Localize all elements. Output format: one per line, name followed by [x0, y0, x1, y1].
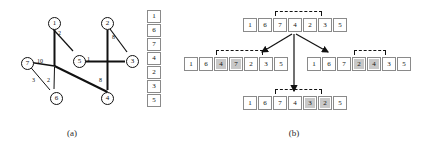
array-cell[interactable]: 3 — [259, 57, 273, 71]
array-cell[interactable]: 5 — [333, 18, 347, 32]
array-cell-swapped[interactable]: 2 — [352, 57, 366, 71]
caption-panel-a: (a) — [52, 128, 92, 138]
array-cell-swapped[interactable]: 4 — [214, 57, 228, 71]
graph-node-6[interactable]: 6 — [50, 92, 63, 105]
array-cell[interactable]: 5 — [397, 57, 411, 71]
tour-cell[interactable]: 6 — [147, 24, 161, 37]
array-cell[interactable]: 6 — [199, 57, 213, 71]
tour-permutation-column: 1 6 7 4 2 3 5 — [147, 10, 161, 108]
reversal-bracket-child-center — [275, 89, 322, 94]
array-cell[interactable]: 7 — [273, 18, 287, 32]
edge-weight-7-4: 10 — [37, 58, 43, 64]
graph-node-1[interactable]: 1 — [48, 17, 61, 30]
array-cell[interactable]: 1 — [184, 57, 198, 71]
array-cell[interactable]: 5 — [333, 96, 347, 110]
tour-cell[interactable]: 4 — [147, 52, 161, 65]
array-cell[interactable]: 1 — [243, 96, 257, 110]
reversal-bracket-parent — [275, 11, 322, 16]
reversal-bracket-child-left — [216, 50, 263, 55]
edge-weight-5-3: 1 — [87, 56, 90, 62]
array-cell[interactable]: 7 — [337, 57, 351, 71]
graph-node-2[interactable]: 2 — [101, 17, 114, 30]
array-cell[interactable]: 2 — [244, 57, 258, 71]
array-row-child-left: 1 6 4 7 2 3 5 — [184, 57, 289, 71]
array-cell[interactable]: 3 — [318, 18, 332, 32]
reversal-bracket-child-right — [354, 50, 386, 55]
array-cell-swapped[interactable]: 7 — [229, 57, 243, 71]
tour-cell[interactable]: 2 — [147, 66, 161, 79]
array-cell[interactable]: 1 — [307, 57, 321, 71]
array-cell[interactable]: 3 — [382, 57, 396, 71]
array-cell[interactable]: 2 — [303, 18, 317, 32]
graph-node-5[interactable]: 5 — [73, 55, 86, 68]
edge-weight-2-3: 8 — [112, 34, 115, 40]
graph-node-4[interactable]: 4 — [101, 92, 114, 105]
array-cell[interactable]: 1 — [243, 18, 257, 32]
array-cell[interactable]: 5 — [274, 57, 288, 71]
array-row-child-right: 1 6 7 2 4 3 5 — [307, 57, 412, 71]
array-cell[interactable]: 4 — [288, 18, 302, 32]
array-cell[interactable]: 6 — [258, 18, 272, 32]
graph-node-7[interactable]: 7 — [21, 57, 34, 70]
edge-weight-4-2: 8 — [99, 77, 102, 83]
caption-panel-b: (b) — [274, 128, 314, 138]
tour-cell[interactable]: 1 — [147, 10, 161, 23]
array-cell[interactable]: 6 — [258, 96, 272, 110]
edge-weight-1-5: 2 — [58, 30, 61, 36]
array-cell-swapped[interactable]: 2 — [318, 96, 332, 110]
array-cell[interactable]: 6 — [322, 57, 336, 71]
tour-cell[interactable]: 5 — [147, 94, 161, 107]
panel-b-neighborhood-tree: 1 6 7 4 2 3 5 1 6 4 7 2 3 5 1 6 7 2 4 3 — [180, 0, 435, 130]
figure-container: 1 2 3 4 5 6 7 2 8 1 10 3 2 8 1 6 7 4 2 3… — [0, 0, 435, 157]
array-row-parent: 1 6 7 4 2 3 5 — [243, 18, 348, 32]
array-row-child-center: 1 6 7 4 3 2 5 — [243, 96, 348, 110]
array-cell[interactable]: 4 — [288, 96, 302, 110]
panel-a-graph: 1 2 3 4 5 6 7 2 8 1 10 3 2 8 1 6 7 4 2 3… — [0, 0, 180, 130]
edge-weight-6-4: 2 — [47, 77, 50, 83]
tour-cell[interactable]: 7 — [147, 38, 161, 51]
graph-node-3[interactable]: 3 — [126, 55, 139, 68]
array-cell[interactable]: 7 — [273, 96, 287, 110]
edge-weight-7-6: 3 — [32, 77, 35, 83]
array-cell-swapped[interactable]: 4 — [367, 57, 381, 71]
tour-cell[interactable]: 3 — [147, 80, 161, 93]
array-cell-swapped[interactable]: 3 — [303, 96, 317, 110]
